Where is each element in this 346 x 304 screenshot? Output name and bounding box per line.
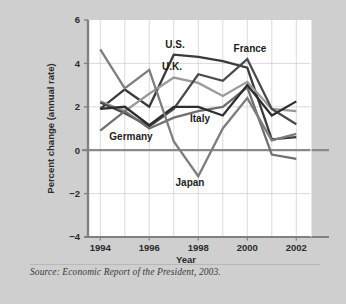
x-tick-label: 1996	[139, 242, 160, 253]
y-tick-label: −4	[69, 231, 81, 242]
y-tick-label: 2	[75, 101, 80, 112]
y-tick-label: 6	[75, 14, 80, 25]
x-tick-label: 1994	[90, 242, 112, 253]
y-tick-label: 4	[75, 58, 81, 69]
plot-area-background	[88, 20, 311, 237]
plot-rect	[88, 20, 311, 237]
annotation-italy: Italy	[190, 113, 210, 124]
annotation-us: U.S.	[165, 39, 185, 50]
annotation-france: France	[234, 43, 267, 54]
annotation-japan: Japan	[176, 177, 205, 188]
x-tick-label: 2002	[286, 242, 307, 253]
chart-figure: −4−20246 19941996199820002002 U.S.France…	[0, 0, 346, 304]
y-axis-title: Percent change (annual rate)	[45, 63, 56, 193]
y-tick-label: −2	[69, 188, 80, 199]
source-note: Source: Economic Report of the President…	[30, 267, 330, 283]
annotation-germany: Germany	[109, 131, 153, 142]
source-divider	[30, 264, 320, 265]
y-tick-label: 0	[75, 145, 80, 156]
x-tick-label: 2000	[237, 242, 258, 253]
annotation-uk: U.K.	[162, 61, 182, 72]
x-tick-label: 1998	[188, 242, 209, 253]
